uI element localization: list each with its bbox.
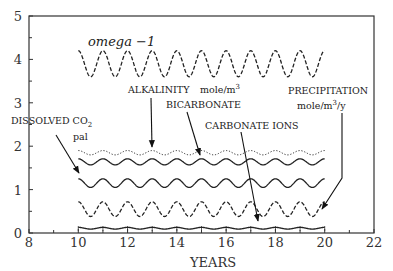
series-line-0	[78, 51, 324, 77]
label-dissolved-co2: DISSOLVED CO2	[11, 115, 92, 129]
series-line-3	[78, 179, 324, 188]
annotations: omega −1 DISSOLVED CO2 pal ALKALINITY mo…	[11, 34, 368, 270]
arrow-carbonate	[241, 132, 258, 221]
y-tick-label: 4	[14, 52, 22, 67]
label-omega: omega −1	[88, 34, 155, 49]
series-lines	[78, 51, 324, 229]
y-tick-label: 5	[14, 9, 22, 24]
x-tick-label: 12	[119, 235, 136, 250]
x-tick-label: 18	[267, 235, 284, 250]
x-tick-label: 22	[366, 235, 383, 250]
label-alkalinity-unit: mole/m3	[200, 83, 240, 95]
y-tick-label: 2	[14, 139, 22, 154]
arrow-alkalinity	[151, 98, 152, 147]
y-tick-label: 3	[14, 96, 22, 111]
series-line-1	[78, 151, 324, 155]
label-pal: pal	[73, 131, 88, 142]
x-tick-label: 20	[316, 235, 333, 250]
y-tick-label: 1	[14, 183, 22, 198]
label-precipitation-unit: mole/m3/y	[297, 99, 346, 111]
chart: 810121416182022012345 omega −1 DISSOLVED…	[0, 0, 393, 271]
x-tick-label: 14	[169, 235, 186, 250]
label-alkalinity: ALKALINITY	[127, 84, 190, 95]
y-tick-label: 0	[14, 226, 22, 241]
x-tick-label: 16	[218, 235, 235, 250]
series-line-4	[78, 202, 324, 217]
label-carbonate-ions: CARBONATE IONS	[205, 120, 299, 131]
series-line-2	[78, 159, 324, 165]
x-axis-label: YEARS	[189, 255, 236, 270]
axis-ticks: 810121416182022012345	[14, 9, 383, 250]
label-precipitation: PRECIPITATION	[288, 85, 368, 96]
label-bicarbonate: BICARBONATE	[166, 99, 241, 110]
x-tick-label: 8	[25, 235, 33, 250]
arrow-bicarbonate	[187, 112, 200, 155]
arrow-precipitation	[322, 113, 342, 209]
x-tick-label: 10	[70, 235, 87, 250]
